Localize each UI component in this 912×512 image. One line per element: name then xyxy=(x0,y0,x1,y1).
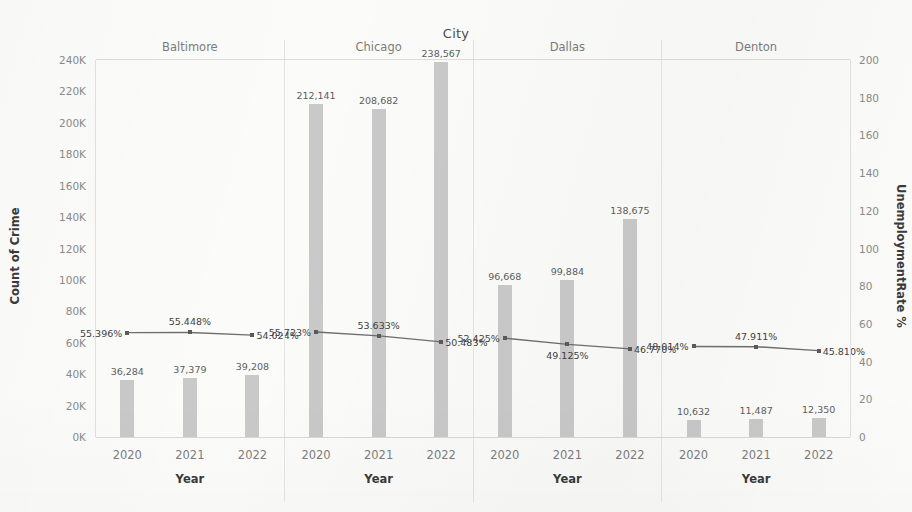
line-marker[interactable] xyxy=(250,333,254,337)
line-value-label: 52.425% xyxy=(458,333,500,344)
y-axis-right-tick: 0 xyxy=(859,431,866,443)
line-marker[interactable] xyxy=(628,347,632,351)
y-axis-right-tick: 100 xyxy=(859,243,879,255)
x-axis-tick[interactable]: 2021 xyxy=(364,448,393,462)
x-axis-panel-baltimore: 202020212022Year xyxy=(96,438,284,502)
x-axis-tick[interactable]: 2022 xyxy=(804,448,833,462)
line-marker[interactable] xyxy=(314,330,318,334)
line-layer: 55.723%53.633%50.483% xyxy=(285,60,473,437)
panel-dallas: 96,66899,884138,67552.425%49.125%46.770% xyxy=(473,60,662,437)
y-axis-left-tick: 240K xyxy=(59,54,86,66)
x-axis-tick[interactable]: 2020 xyxy=(113,448,142,462)
panel-header-denton[interactable]: Denton xyxy=(661,40,850,59)
line-marker[interactable] xyxy=(565,342,569,346)
bar-value-label: 238,567 xyxy=(422,48,461,59)
line-marker[interactable] xyxy=(125,331,129,335)
y-axis-right-tick: 160 xyxy=(859,129,879,141)
y-axis-right-tick: 60 xyxy=(859,318,872,330)
panel-denton: 10,63211,48712,35048.014%47.911%45.810% xyxy=(661,60,850,437)
line-marker[interactable] xyxy=(503,336,507,340)
x-axis-tick[interactable]: 2021 xyxy=(741,448,770,462)
x-axis-tick[interactable]: 2020 xyxy=(301,448,330,462)
line-marker[interactable] xyxy=(377,334,381,338)
y-axis-left-tick: 120K xyxy=(59,243,86,255)
unemployment-line xyxy=(474,60,662,437)
x-axis-title: Year xyxy=(96,472,284,486)
line-value-label: 48.014% xyxy=(646,341,688,352)
x-axis-title: Year xyxy=(285,472,473,486)
line-marker[interactable] xyxy=(439,340,443,344)
line-layer: 55.396%55.448%54.024% xyxy=(96,60,284,437)
line-value-label: 55.723% xyxy=(269,326,311,337)
y-axis-left-tick: 0K xyxy=(72,431,86,443)
line-marker[interactable] xyxy=(188,330,192,334)
y-axis-left-tick: 20K xyxy=(66,400,86,412)
x-axis-title: Year xyxy=(662,472,850,486)
x-axis-tick[interactable]: 2022 xyxy=(238,448,267,462)
y-axis-right-tick: 140 xyxy=(859,167,879,179)
line-marker[interactable] xyxy=(754,345,758,349)
x-axis-tick[interactable]: 2022 xyxy=(427,448,456,462)
line-value-label: 47.911% xyxy=(735,331,777,342)
line-value-label: 53.633% xyxy=(357,320,399,331)
line-layer: 48.014%47.911%45.810% xyxy=(662,60,850,437)
y-axis-left-tick: 200K xyxy=(59,117,86,129)
y-axis-right-spine xyxy=(850,60,851,437)
y-axis-left-tick: 60K xyxy=(66,337,86,349)
unemployment-line xyxy=(96,60,284,437)
x-axis-tick[interactable]: 2020 xyxy=(490,448,519,462)
y-axis-right-tick: 200 xyxy=(859,54,879,66)
x-axis-title: Year xyxy=(474,472,662,486)
line-marker[interactable] xyxy=(817,349,821,353)
x-axis-tick[interactable]: 2021 xyxy=(175,448,204,462)
y-axis-right-tick: 20 xyxy=(859,393,872,405)
y-axis-right-tick: 180 xyxy=(859,92,879,104)
y-axis-left-title: Count of Crime xyxy=(8,208,22,305)
y-axis-left-tick: 180K xyxy=(59,148,86,160)
x-axis-tick[interactable]: 2020 xyxy=(679,448,708,462)
y-axis-left-tick: 80K xyxy=(66,305,86,317)
y-axis-left-tick: 140K xyxy=(59,211,86,223)
y-axis-right-tick: 40 xyxy=(859,356,872,368)
panel-header-band: BaltimoreChicagoDallasDenton xyxy=(96,40,850,60)
line-value-label: 55.396% xyxy=(80,327,122,338)
line-value-label: 55.448% xyxy=(169,316,211,327)
x-axis-tick[interactable]: 2022 xyxy=(615,448,644,462)
y-axis-right-tick: 120 xyxy=(859,205,879,217)
y-axis-left-tick: 160K xyxy=(59,180,86,192)
panel-chicago: 212,141208,682238,56755.723%53.633%50.48… xyxy=(284,60,473,437)
x-axis-panel-dallas: 202020212022Year xyxy=(473,438,662,502)
x-axis: 202020212022Year202020212022Year20202021… xyxy=(96,438,850,502)
chart-title: City xyxy=(0,26,912,41)
y-axis-right-title: UnemploymentRate % xyxy=(894,184,908,328)
chart-canvas: City BaltimoreChicagoDallasDenton 0K20K4… xyxy=(0,0,912,512)
x-axis-panel-denton: 202020212022Year xyxy=(661,438,850,502)
unemployment-line xyxy=(662,60,850,437)
plot-area: 36,28437,37939,20855.396%55.448%54.024%2… xyxy=(96,60,850,437)
x-axis-tick[interactable]: 2021 xyxy=(553,448,582,462)
line-value-label: 49.125% xyxy=(546,350,588,361)
panel-header-dallas[interactable]: Dallas xyxy=(473,40,662,59)
y-axis-left-tick: 100K xyxy=(59,274,86,286)
panel-baltimore: 36,28437,37939,20855.396%55.448%54.024% xyxy=(96,60,284,437)
line-marker[interactable] xyxy=(692,344,696,348)
panel-header-baltimore[interactable]: Baltimore xyxy=(96,40,284,59)
x-axis-panel-chicago: 202020212022Year xyxy=(284,438,473,502)
y-axis-left-tick: 40K xyxy=(66,368,86,380)
unemployment-line xyxy=(285,60,473,437)
y-axis-left-tick: 220K xyxy=(59,85,86,97)
line-layer: 52.425%49.125%46.770% xyxy=(474,60,662,437)
y-axis-right-tick: 80 xyxy=(859,280,872,292)
